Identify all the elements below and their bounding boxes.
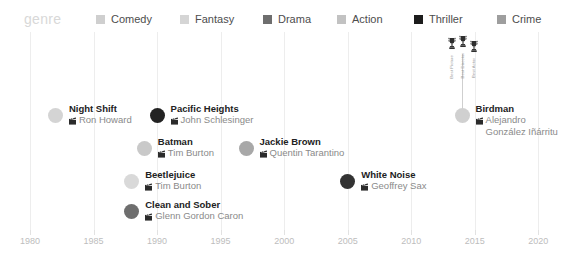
event-director-name: Glenn Gordon Caron [155,210,243,222]
event-title: Birdman [476,103,564,114]
event-dot[interactable] [124,174,139,189]
event-text: BirdmanAlejandro González Iñárritu [476,103,564,137]
award-group[interactable]: Best PictureBest DirectorBest Actor [446,34,479,79]
legend-swatch-thriller [414,15,423,24]
legend-swatch-action [337,15,346,24]
event-title: Pacific Heights [171,103,254,114]
legend-label-action: Action [352,13,383,25]
legend-swatch-crime [497,15,506,24]
award-item[interactable]: Best Director [457,34,468,79]
event-director: Tim Burton [145,180,201,192]
legend-label-drama: Drama [278,13,311,25]
gridline-2010 [411,32,412,232]
event-text: BeetlejuiceTim Burton [145,169,201,192]
event-director-name: Tim Burton [155,180,201,192]
event-title: Jackie Brown [260,136,345,147]
axis-tick-2020 [538,230,539,235]
axis-tick-2000 [284,230,285,235]
axis-tick-1985 [94,230,95,235]
event-dot[interactable] [137,141,152,156]
trophy-icon [470,39,478,57]
legend-item-drama[interactable]: Drama [263,12,311,26]
legend-swatch-fantasy [180,15,189,24]
event-text: White NoiseGeoffrey Sax [361,169,426,192]
event-title: Clean and Sober [145,199,243,210]
axis-label-2000: 2000 [274,236,294,246]
event-director-name: Tim Burton [168,147,214,159]
axis-tick-2015 [475,230,476,235]
axis-tick-2010 [411,230,412,235]
event-text: BatmanTim Burton [158,136,214,159]
event-dot[interactable] [150,108,165,123]
event-text: Pacific HeightsJohn Schlesinger [171,103,254,126]
legend-item-comedy[interactable]: Comedy [96,12,152,26]
axis-label-1995: 1995 [211,236,231,246]
event-director: Alejandro González Iñárritu [476,114,564,137]
film-clapper-icon [476,116,483,124]
film-clapper-icon [260,149,267,157]
film-clapper-icon [158,149,165,157]
legend-swatch-comedy [96,15,105,24]
legend-swatch-drama [263,15,272,24]
event-director: Ron Howard [69,114,132,126]
event-director-name: John Schlesinger [181,114,254,126]
event-dot[interactable] [455,108,470,123]
event-text: Night ShiftRon Howard [69,103,132,126]
event-title: Beetlejuice [145,169,201,180]
axis-label-1990: 1990 [147,236,167,246]
event-title: Batman [158,136,214,147]
axis-tick-1990 [157,230,158,235]
legend-item-fantasy[interactable]: Fantasy [180,12,234,26]
event-text: Jackie BrownQuentin Tarantino [260,136,345,159]
event-title: Night Shift [69,103,132,114]
event-director: Glenn Gordon Caron [145,210,243,222]
film-clapper-icon [361,182,368,190]
event-dot[interactable] [340,174,355,189]
genre-legend: genre Comedy Fantasy Drama Action Thrill… [0,0,572,32]
axis-label-2010: 2010 [401,236,421,246]
axis-label-2005: 2005 [338,236,358,246]
gridline-1980 [30,32,31,232]
legend-label-fantasy: Fantasy [195,13,234,25]
timeline-plot: 198019851990199520002005201020152020 Bes… [0,32,572,260]
axis-label-2020: 2020 [528,236,548,246]
axis-label-1980: 1980 [20,236,40,246]
event-director-name: Alejandro González Iñárritu [486,114,564,137]
axis-label-2015: 2015 [465,236,485,246]
film-clapper-icon [145,212,152,220]
gridline-2005 [348,32,349,232]
axis-label-1985: 1985 [84,236,104,246]
event-title: White Noise [361,169,426,180]
award-item[interactable]: Best Actor [468,39,479,78]
award-label: Best Picture [449,55,454,79]
event-director-name: Quentin Tarantino [270,147,345,159]
legend-label-comedy: Comedy [111,13,152,25]
trophy-icon [448,36,456,54]
axis-tick-1980 [30,230,31,235]
event-dot[interactable] [124,204,139,219]
trophy-icon [459,34,467,52]
film-clapper-icon [69,116,76,124]
event-director: Geoffrey Sax [361,180,426,192]
legend-item-crime[interactable]: Crime [497,12,541,26]
award-item[interactable]: Best Picture [446,36,457,79]
gridline-2000 [284,32,285,232]
axis-tick-2005 [348,230,349,235]
event-director-name: Geoffrey Sax [371,180,426,192]
event-director-name: Ron Howard [79,114,132,126]
axis-tick-1995 [221,230,222,235]
event-dot[interactable] [239,141,254,156]
event-director: Tim Burton [158,147,214,159]
gridline-1985 [94,32,95,232]
legend-title: genre [24,11,61,27]
genre-timeline-chart: genre Comedy Fantasy Drama Action Thrill… [0,0,572,260]
event-director: Quentin Tarantino [260,147,345,159]
film-clapper-icon [171,116,178,124]
event-dot[interactable] [48,108,63,123]
legend-label-thriller: Thriller [429,13,463,25]
legend-item-action[interactable]: Action [337,12,383,26]
film-clapper-icon [145,182,152,190]
legend-item-thriller[interactable]: Thriller [414,12,463,26]
award-label: Best Actor [471,58,476,78]
award-label: Best Director [460,53,465,79]
